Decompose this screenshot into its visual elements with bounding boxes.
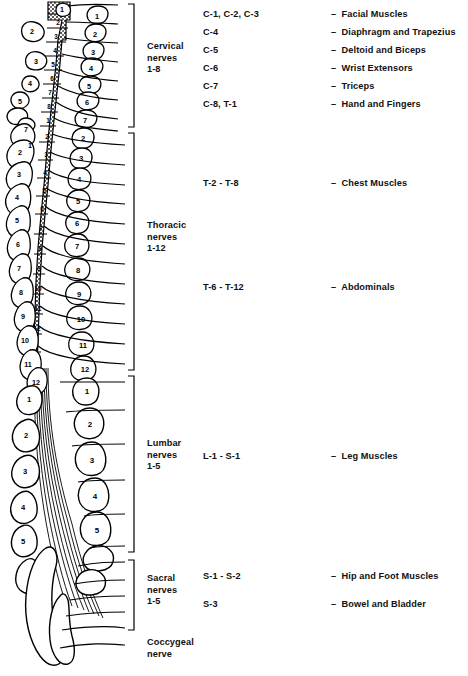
svg-text:10: 10 (34, 285, 42, 292)
svg-text:4: 4 (93, 492, 98, 501)
nerve-levels-l1-s1: L-1 - S-1 (203, 451, 240, 461)
svg-text:3: 3 (23, 467, 27, 476)
svg-text:3: 3 (91, 48, 95, 57)
svg-text:6: 6 (75, 219, 79, 228)
nerve-levels-c4: C-4 (203, 27, 218, 37)
svg-text:9: 9 (37, 265, 41, 272)
bracket-thoracic (128, 133, 134, 370)
svg-text:4: 4 (53, 47, 57, 54)
svg-text:3: 3 (90, 456, 95, 465)
svg-text:7: 7 (24, 125, 28, 134)
svg-text:12: 12 (81, 365, 89, 374)
svg-text:7: 7 (39, 225, 43, 232)
muscle-facial: – Facial Muscles (331, 9, 408, 19)
svg-text:7: 7 (48, 89, 52, 96)
region-label-coccygeal: Coccygealnerve (147, 637, 194, 660)
svg-text:11: 11 (79, 341, 88, 350)
svg-text:6: 6 (50, 75, 54, 82)
svg-text:4: 4 (43, 169, 47, 176)
muscle-hip-foot: – Hip and Foot Muscles (331, 571, 438, 581)
muscle-chest: – Chest Muscles (331, 178, 407, 188)
svg-text:7: 7 (75, 242, 79, 251)
nerve-levels-s1-s2: S-1 - S-2 (203, 571, 241, 581)
nerve-levels-c5: C-5 (203, 45, 218, 55)
region-label-cervical: Cervicalnerves1-8 (147, 41, 184, 76)
svg-text:2: 2 (18, 148, 22, 157)
region-label-sacral: Sacralnerves1-5 (147, 573, 177, 608)
nerve-levels-c8-t1: C-8, T-1 (203, 99, 237, 109)
bracket-cervical (128, 4, 134, 127)
svg-text:3: 3 (79, 154, 83, 163)
svg-text:2: 2 (45, 133, 49, 140)
nerve-levels-c6: C-6 (203, 63, 218, 73)
svg-text:8: 8 (19, 288, 23, 297)
region-brackets (128, 4, 134, 630)
svg-text:6: 6 (85, 98, 89, 107)
svg-text:2: 2 (56, 19, 60, 26)
svg-text:5: 5 (87, 82, 91, 91)
muscle-hand-fingers: – Hand and Fingers (331, 99, 421, 109)
svg-text:1: 1 (60, 5, 64, 14)
muscle-bowel-bladder: – Bowel and Bladder (331, 599, 426, 609)
svg-text:1: 1 (28, 141, 32, 150)
svg-text:5: 5 (51, 61, 55, 68)
svg-text:4: 4 (15, 193, 19, 202)
nerve-levels-t2-t8: T-2 - T-8 (203, 178, 239, 188)
svg-text:7: 7 (17, 264, 21, 273)
svg-text:8: 8 (76, 266, 80, 275)
svg-text:6: 6 (16, 240, 20, 249)
svg-text:9: 9 (77, 290, 81, 299)
svg-text:4: 4 (28, 79, 32, 88)
svg-text:3: 3 (54, 33, 58, 40)
svg-text:9: 9 (21, 312, 25, 321)
muscle-deltoid-biceps: – Deltoid and Biceps (331, 45, 426, 55)
svg-text:3: 3 (17, 170, 21, 179)
svg-text:2: 2 (88, 420, 93, 429)
muscle-diaphragm-trapezius: – Diaphragm and Trapezius (331, 27, 456, 37)
region-label-lumbar: Lumbarnerves1-5 (147, 438, 181, 473)
muscle-leg: – Leg Muscles (331, 451, 398, 461)
svg-text:7: 7 (83, 116, 87, 125)
sacrum-coccyx-outline (26, 547, 75, 665)
bracket-lumbar (128, 376, 134, 552)
nerve-levels-c1-c3: C-1, C-2, C-3 (203, 9, 259, 19)
svg-text:3: 3 (44, 151, 48, 158)
svg-text:5: 5 (42, 187, 46, 194)
bracket-sacral (128, 560, 134, 630)
nerve-levels-c7: C-7 (203, 81, 218, 91)
svg-text:8: 8 (47, 103, 51, 110)
region-label-thoracic: Thoracicnerves1-12 (147, 220, 186, 255)
svg-text:2: 2 (93, 30, 97, 39)
svg-text:1: 1 (95, 12, 99, 21)
svg-text:3: 3 (34, 57, 38, 66)
svg-text:1: 1 (46, 117, 50, 124)
muscle-abdominals: – Abdominals (331, 282, 395, 292)
muscle-triceps: – Triceps (331, 81, 374, 91)
nerve-levels-t6-t12: T-6 - T-12 (203, 282, 244, 292)
svg-text:5: 5 (18, 97, 22, 106)
svg-text:1: 1 (85, 387, 90, 396)
svg-text:8: 8 (38, 245, 42, 252)
muscle-wrist-extensors: – Wrist Extensors (331, 63, 413, 73)
svg-text:10: 10 (21, 336, 29, 345)
svg-text:6: 6 (40, 205, 44, 212)
svg-text:2: 2 (24, 431, 28, 440)
nerve-levels-s3: S-3 (203, 599, 218, 609)
svg-text:5: 5 (15, 216, 19, 225)
svg-text:2: 2 (30, 27, 34, 36)
svg-text:5: 5 (95, 526, 100, 535)
svg-text:11: 11 (24, 360, 32, 369)
